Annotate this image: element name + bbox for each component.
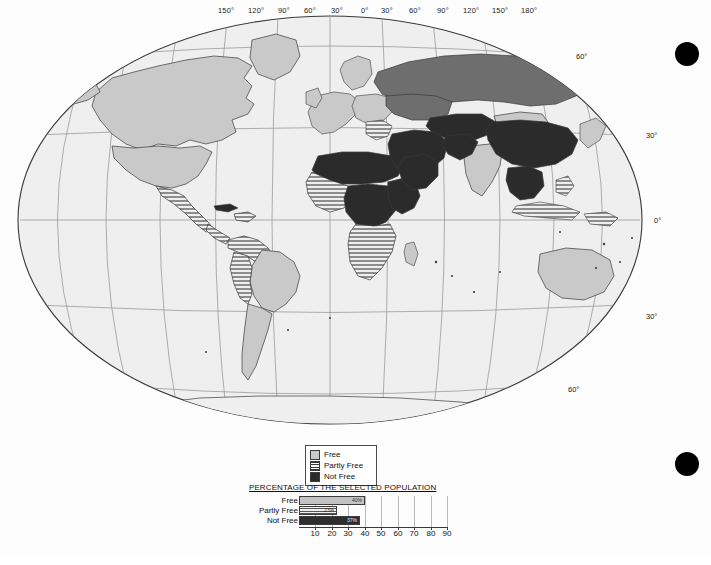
bar-row-not-free[interactable]: Not Free 37% — [253, 516, 453, 525]
bar-fill-free[interactable]: 40% — [299, 496, 365, 505]
world-map[interactable]: 150° 120° 90° 60° 30° 0° 30° 60° 90° 120… — [0, 0, 660, 440]
tick-label-20: 20 — [324, 529, 340, 539]
lon-label-120e: 120° — [463, 6, 479, 15]
lon-label-120w: 120° — [248, 6, 264, 15]
free-swatch-icon — [310, 450, 320, 460]
lon-label-30w: 30° — [331, 6, 343, 15]
lon-label-150e: 150° — [492, 6, 508, 15]
chart-title: PERCENTAGE OF THE SELECTED POPULATION — [249, 483, 436, 492]
region-new-zealand[interactable] — [628, 302, 644, 320]
lon-label-180: 180° — [521, 6, 537, 15]
tick-label-30: 30 — [340, 529, 356, 539]
tick-label-50: 50 — [373, 529, 389, 539]
lon-label-0: 0° — [361, 6, 369, 15]
page-root: 150° 120° 90° 60° 30° 0° 30° 60° 90° 120… — [0, 0, 711, 565]
legend-label-free: Free — [324, 450, 340, 459]
tick-label-10: 10 — [307, 529, 323, 539]
bar-value-partly-free: 23% — [324, 506, 336, 515]
bar-row-partly-free[interactable]: Partly Free 23% — [253, 506, 453, 515]
region-canada[interactable] — [92, 56, 254, 150]
tick-label-80: 80 — [423, 529, 439, 539]
world-map-svg — [0, 0, 660, 440]
legend-label-partly-free: Partly Free — [324, 461, 363, 470]
tick-label-70: 70 — [406, 529, 422, 539]
bar-fill-not-free[interactable]: 37% — [299, 516, 360, 525]
bar-row-free[interactable]: Free 40% — [253, 496, 453, 505]
lon-label-60w: 60° — [304, 6, 316, 15]
tick-label-40: 40 — [357, 529, 373, 539]
lat-label-30s: 30° — [646, 312, 657, 321]
lon-label-60e: 60° — [409, 6, 421, 15]
bar-value-free: 40% — [352, 496, 364, 505]
bar-value-not-free: 37% — [347, 516, 359, 525]
partly-free-swatch-icon — [310, 461, 320, 471]
lon-label-30e: 30° — [381, 6, 393, 15]
not-free-swatch-icon — [310, 472, 320, 482]
bar-label-not-free: Not Free — [238, 516, 298, 525]
map-legend: Free Partly Free Not Free — [305, 445, 377, 486]
lat-label-30n: 30° — [646, 131, 657, 140]
legend-label-not-free: Not Free — [324, 472, 355, 481]
bar-track-not-free: 37% — [299, 516, 447, 525]
lat-label-60n: 60° — [576, 52, 587, 61]
legend-item-free[interactable]: Free — [310, 449, 372, 460]
tick-label-60: 60 — [390, 529, 406, 539]
bar-label-partly-free: Partly Free — [238, 506, 298, 515]
bar-label-free: Free — [238, 496, 298, 505]
marker-top-right-icon[interactable] — [675, 42, 699, 66]
bar-track-free: 40% — [299, 496, 447, 505]
lat-label-60s: 60° — [568, 385, 579, 394]
bottom-bar — [0, 556, 711, 565]
legend-item-partly-free[interactable]: Partly Free — [310, 460, 372, 471]
bar-fill-partly-free[interactable]: 23% — [299, 506, 337, 515]
chart-x-tick-labels: 10 20 30 40 50 60 70 80 90 — [290, 529, 460, 540]
region-antarctica[interactable] — [150, 396, 540, 424]
legend-item-not-free[interactable]: Not Free — [310, 471, 372, 482]
lon-label-90w: 90° — [278, 6, 290, 15]
bar-track-partly-free: 23% — [299, 506, 447, 515]
lon-label-90e: 90° — [437, 6, 449, 15]
lon-label-150w: 150° — [218, 6, 234, 15]
tick-label-90: 90 — [439, 529, 455, 539]
lat-label-0: 0° — [654, 216, 661, 225]
marker-bottom-right-icon[interactable] — [675, 452, 699, 476]
